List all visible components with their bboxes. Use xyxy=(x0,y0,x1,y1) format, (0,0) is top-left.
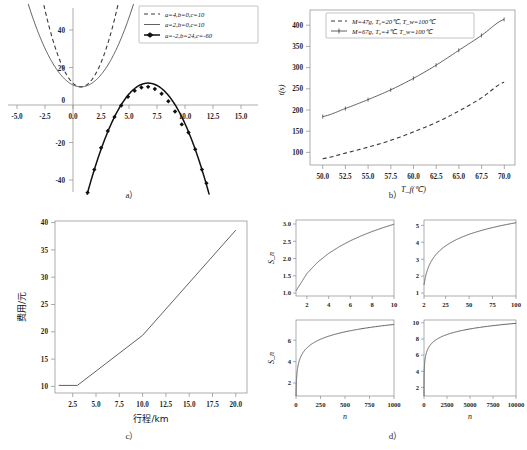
panel-d3-ytick-1: 4 xyxy=(288,358,292,365)
panel-d4-xtick-4: 10000 xyxy=(508,401,525,408)
panel-b-xtick-2: 55.0 xyxy=(362,173,375,181)
panel-d1-xtick-4: 10 xyxy=(391,301,398,308)
panel-b-xtick-7: 67.5 xyxy=(475,173,488,181)
panel-c-caption: c） xyxy=(0,429,264,442)
panel-a-legend-label-1: a=2,b=0,c=10 xyxy=(165,21,205,28)
panel-d-subplot-bottom-right: 2 4 6 8 10 0 2500 5000 7500 10000 xyxy=(412,319,525,421)
panel-d1-x-ticks: 2 4 6 8 10 xyxy=(305,296,398,308)
panel-d3-y-ticks: 2 4 6 xyxy=(288,337,296,387)
panel-c-xtick-0: 2.5 xyxy=(68,401,77,409)
panel-d2-xtick-3: 75 xyxy=(489,301,496,308)
panel-d3-x-ticks: 0 250 500 750 1000 xyxy=(294,396,401,408)
panel-a-ytick-4: -40 xyxy=(55,177,65,185)
panel-a-xtick-8: 15.0 xyxy=(235,113,248,121)
panel-d-subplot-top-right: 1 2 3 4 5 2 25 50 75 100 xyxy=(416,220,522,308)
panel-c-series-line xyxy=(59,230,236,385)
panel-a-xtick-7: 12.5 xyxy=(207,113,220,121)
panel-d3-x-axis-label: n xyxy=(343,412,347,421)
panel-d1-xtick-2: 6 xyxy=(349,301,353,308)
panel-c-ytick-6: 40 xyxy=(41,219,49,227)
panel-d1-y-ticks: 1.0 1.5 2.0 2.5 3.0 xyxy=(283,220,296,296)
panel-d4-xtick-2: 5000 xyxy=(463,401,477,408)
panel-a-series-solid xyxy=(28,4,133,87)
panel-a-chart: -5.0 -2.5 0.0 2.5 5.0 7.5 10.0 12.5 15.0… xyxy=(0,0,264,200)
panel-d-chart: 1.0 1.5 2.0 2.5 3.0 2 4 6 8 10 xyxy=(264,207,527,450)
panel-a-x-ticks: -5.0 -2.5 0.0 2.5 5.0 7.5 10.0 12.5 15.0 xyxy=(11,105,247,121)
panel-b-ytick-1: 150 xyxy=(292,128,303,136)
panel-d4-ytick-2: 6 xyxy=(416,351,420,358)
panel-d1-ytick-3: 2.5 xyxy=(283,238,292,245)
panel-d1-ytick-0: 1.0 xyxy=(283,289,292,296)
data-point-marker xyxy=(166,99,170,103)
panel-b-ytick-0: 100 xyxy=(292,149,303,157)
panel-d4-xtick-1: 2500 xyxy=(440,401,454,408)
data-point-marker xyxy=(173,109,177,113)
panel-c-svg: 10 15 20 25 30 35 40 2.5 5.0 7.5 xyxy=(0,207,264,450)
panel-d4-y-ticks: 2 4 6 8 10 xyxy=(412,319,424,391)
panel-d1-y-axis-label: S_n xyxy=(267,252,276,264)
panel-d2-ytick-4: 5 xyxy=(416,222,420,229)
panel-d2-ytick-2: 3 xyxy=(416,256,420,263)
panel-b-legend-label-1: M=67g, T₀=4℃, T_w=100℃ xyxy=(351,28,434,35)
panel-a-ytick-2: 0 xyxy=(61,97,65,105)
panel-a-xtick-1: -2.5 xyxy=(39,113,51,121)
panel-a-xtick-0: -5.0 xyxy=(11,113,23,121)
panel-a-series-markers xyxy=(87,83,209,195)
panel-d3-xtick-3: 750 xyxy=(365,401,376,408)
figure-panel-grid: -5.0 -2.5 0.0 2.5 5.0 7.5 10.0 12.5 15.0… xyxy=(0,0,527,450)
panel-c-ytick-2: 20 xyxy=(41,328,49,336)
panel-a-svg: -5.0 -2.5 0.0 2.5 5.0 7.5 10.0 12.5 15.0… xyxy=(0,0,264,200)
panel-c-ytick-5: 35 xyxy=(41,247,49,255)
panel-c-xtick-1: 5.0 xyxy=(92,401,101,409)
panel-d2-series-line xyxy=(424,223,516,285)
panel-a-legend: a=4,b=0,c=10 a=2,b=0,c=10 a=-2,b=24,c=-6… xyxy=(139,6,258,43)
panel-b-xtick-0: 50.0 xyxy=(316,173,329,181)
panel-d3-xtick-4: 1000 xyxy=(387,401,401,408)
panel-a-xtick-5: 7.5 xyxy=(153,113,162,121)
panel-c-ytick-3: 25 xyxy=(41,301,49,309)
panel-b-ytick-6: 400 xyxy=(292,22,303,30)
panel-d3-xtick-2: 500 xyxy=(340,401,351,408)
panel-d1-ytick-1: 1.5 xyxy=(283,272,292,279)
panel-b-y-axis-label: t(s) xyxy=(277,84,286,95)
panel-b-xtick-3: 57.5 xyxy=(385,173,398,181)
panel-c-xtick-6: 17.5 xyxy=(206,401,219,409)
panel-d4-xtick-0: 0 xyxy=(422,401,426,408)
panel-d2-xtick-1: 25 xyxy=(442,301,449,308)
panel-d4-ytick-3: 8 xyxy=(416,335,420,342)
panel-c-y-axis-label: 费用/元 xyxy=(16,292,27,322)
panel-d2-ytick-3: 4 xyxy=(416,239,420,246)
panel-b-xtick-6: 65.0 xyxy=(453,173,466,181)
panel-d3-xtick-1: 250 xyxy=(316,401,327,408)
panel-c-ytick-4: 30 xyxy=(41,274,49,282)
panel-d1-xtick-1: 4 xyxy=(327,301,331,308)
panel-d4-x-axis-label: n xyxy=(468,412,472,421)
panel-d3-ytick-2: 6 xyxy=(288,337,292,344)
panel-d2-ytick-1: 2 xyxy=(416,272,420,279)
panel-a-ytick-0: 40 xyxy=(58,27,66,35)
data-point-marker xyxy=(146,85,150,89)
panel-b-xtick-8: 70.0 xyxy=(498,173,511,181)
panel-d4-xtick-3: 7500 xyxy=(486,401,500,408)
panel-d3-ytick-0: 2 xyxy=(288,379,292,386)
panel-d4-ytick-0: 2 xyxy=(416,384,420,391)
panel-a-xtick-2: 0.0 xyxy=(69,113,78,121)
panel-b-ytick-3: 250 xyxy=(292,85,303,93)
panel-b-xtick-4: 60.0 xyxy=(407,173,420,181)
panel-d1-ytick-2: 2.0 xyxy=(283,255,292,262)
panel-d3-xtick-0: 0 xyxy=(294,401,298,408)
panel-c-x-axis-label: 行程/km xyxy=(133,413,168,424)
panel-a-series-dashed xyxy=(44,5,118,87)
panel-b-xtick-5: 62.5 xyxy=(430,173,443,181)
panel-a-legend-label-0: a=4,b=0,c=10 xyxy=(165,11,205,18)
panel-c-y-ticks: 10 15 20 25 30 35 40 xyxy=(41,219,55,391)
data-point-marker xyxy=(92,167,96,171)
panel-b-caption: b） xyxy=(264,188,527,201)
panel-b-ytick-4: 300 xyxy=(292,64,303,72)
panel-c-xtick-2: 7.5 xyxy=(115,401,124,409)
panel-d4-ytick-4: 10 xyxy=(412,319,419,326)
panel-b-legend-label-0: M=47g, T₀=20℃, T_w=100℃ xyxy=(351,18,437,25)
panel-a-ytick-3: -20 xyxy=(55,140,65,148)
panel-b-chart: 100 150 200 250 300 350 400 50.0 xyxy=(264,0,527,200)
panel-c-ytick-1: 15 xyxy=(41,356,49,364)
